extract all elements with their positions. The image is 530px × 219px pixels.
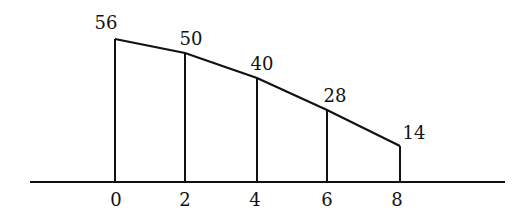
value-label-28: 28 [324, 87, 347, 105]
x-tick-label-2: 2 [179, 191, 190, 209]
x-tick-label-8: 8 [391, 191, 402, 209]
x-tick-label-4: 4 [249, 191, 260, 209]
x-tick-label-6: 6 [321, 191, 332, 209]
value-label-50: 50 [180, 30, 203, 48]
value-label-40: 40 [251, 55, 274, 73]
x-tick-label-0: 0 [110, 191, 121, 209]
value-label-56: 56 [95, 14, 118, 32]
ordinate-diagram [0, 0, 530, 219]
value-label-14: 14 [403, 124, 426, 142]
